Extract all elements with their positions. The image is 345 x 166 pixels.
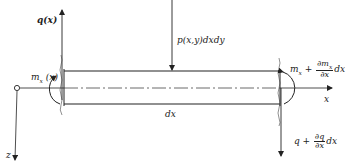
shear-right-base: q +: [294, 136, 310, 146]
z-axis-label: z: [6, 151, 11, 160]
moment-right-base: m: [290, 64, 299, 74]
shear-right-fraction: ∂q ∂x: [314, 133, 325, 151]
shear-right-label: q + ∂q ∂x dx: [294, 133, 337, 151]
beam-element: [64, 69, 280, 106]
moment-left-arg: (x): [43, 72, 58, 82]
origin-point: [14, 85, 19, 90]
z-axis: [15, 91, 17, 160]
moment-right-num-sub: x: [329, 63, 332, 70]
moment-left-base: m: [31, 72, 40, 82]
moment-right-plus: +: [305, 64, 313, 74]
moment-left-label: mx (x): [31, 73, 58, 84]
moment-right-den: ∂x: [320, 71, 329, 79]
moment-right-tail: dx: [334, 64, 345, 74]
x-axis-label: x: [324, 95, 329, 104]
moment-right-sub: x: [299, 69, 302, 76]
element-length-label: dx: [165, 110, 176, 119]
load-label: p(x,y)dxdy: [177, 36, 225, 45]
moment-right-label: mx + ∂mx ∂x dx: [290, 60, 345, 79]
shear-right-tail: dx: [326, 136, 337, 146]
moment-right-num: ∂m: [317, 59, 329, 68]
moment-right-fraction: ∂mx ∂x: [316, 60, 333, 79]
shear-right-den: ∂x: [315, 142, 324, 150]
shear-left-label: q(x): [37, 16, 57, 25]
